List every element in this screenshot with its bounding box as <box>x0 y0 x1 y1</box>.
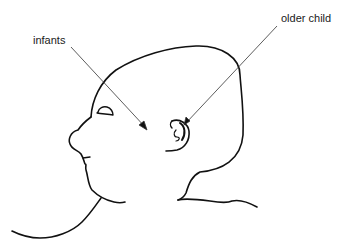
neck-front <box>12 198 101 238</box>
arrowhead-infants <box>139 121 147 130</box>
diagram-canvas: infants older child <box>0 0 346 250</box>
pointer-older <box>186 26 277 123</box>
shoulder <box>178 199 257 207</box>
pointer-infants <box>71 47 146 128</box>
ear <box>166 120 189 151</box>
eye <box>97 107 113 115</box>
ear-canal <box>174 130 179 141</box>
mouth <box>83 157 90 158</box>
label-older-child: older child <box>281 12 331 24</box>
face-profile <box>69 117 125 203</box>
label-infants: infants <box>33 34 65 46</box>
arrowhead-older <box>184 117 190 125</box>
head-outline <box>91 46 243 200</box>
